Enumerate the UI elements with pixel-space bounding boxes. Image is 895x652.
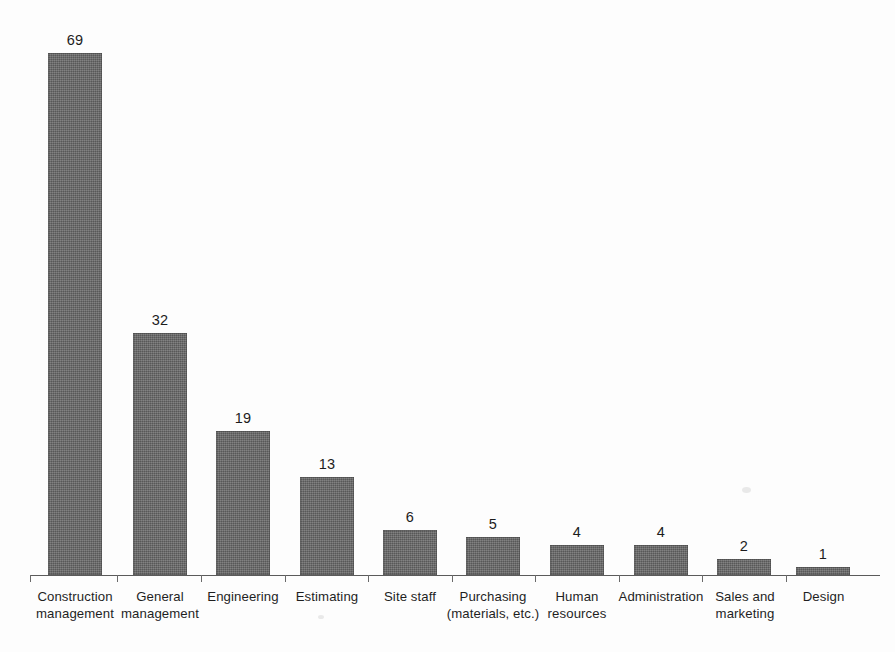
x-axis-tick (30, 575, 31, 582)
category-label-line1: Construction (37, 589, 112, 604)
bar-construction-management[interactable] (48, 53, 102, 575)
bar-value-label: 6 (383, 510, 437, 525)
x-axis-tick (368, 575, 369, 582)
bar-estimating[interactable] (300, 477, 354, 575)
bar-value-label: 2 (717, 539, 771, 554)
category-label-line1: Engineering (207, 589, 279, 604)
x-axis-tick (702, 575, 703, 582)
bar-value-label: 19 (216, 411, 270, 426)
bar-value-label: 5 (466, 517, 520, 532)
bar-value-label: 1 (796, 547, 850, 562)
category-label-design: Design (772, 588, 875, 605)
bar-sales-and-marketing[interactable] (717, 559, 771, 575)
scan-artifact-speck (742, 487, 751, 493)
category-label-line2: management (105, 605, 215, 622)
category-label-line1: General (136, 589, 184, 604)
category-label-line1: Design (803, 589, 845, 604)
bar-administration[interactable] (634, 545, 688, 575)
bar-value-label: 69 (48, 33, 102, 48)
bar-engineering[interactable] (216, 431, 270, 575)
x-axis-tick (619, 575, 620, 582)
bar-site-staff[interactable] (383, 530, 437, 575)
x-axis-tick (285, 575, 286, 582)
bar-value-label: 4 (634, 525, 688, 540)
bar-value-label: 4 (550, 525, 604, 540)
x-axis-tick (117, 575, 118, 582)
category-label-line1: Sales and (715, 589, 775, 604)
plot-area: 69 32 19 13 6 5 4 4 2 1 Construction man… (0, 0, 895, 652)
category-label-line1: Human (555, 589, 598, 604)
bar-human-resources[interactable] (550, 545, 604, 575)
category-label-line1: Estimating (296, 589, 359, 604)
category-label-line2: resources (522, 605, 632, 622)
bar-chart: 69 32 19 13 6 5 4 4 2 1 Construction man… (0, 0, 895, 652)
category-label-line2: marketing (690, 605, 800, 622)
scan-artifact-speck (318, 615, 324, 619)
category-label-line1: Purchasing (460, 589, 527, 604)
bar-value-label: 13 (300, 457, 354, 472)
bar-value-label: 32 (133, 313, 187, 328)
x-axis-tick (535, 575, 536, 582)
x-axis-tick (201, 575, 202, 582)
bar-purchasing[interactable] (466, 537, 520, 575)
category-label-line1: Site staff (384, 589, 436, 604)
bar-design[interactable] (796, 567, 850, 575)
x-axis-tick (452, 575, 453, 582)
bar-general-management[interactable] (133, 333, 187, 575)
x-axis-tick (786, 575, 787, 582)
x-axis-line (30, 575, 880, 576)
